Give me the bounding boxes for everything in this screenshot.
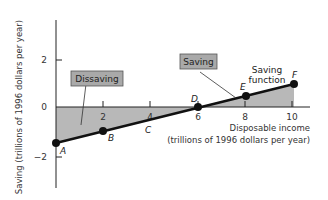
saving-function-chart: 2 0 −2 2 4 6 8 10 A B C D E F Dissaving … [0, 0, 328, 200]
x-tick-2: 2 [100, 112, 106, 122]
y-tick-2: 2 [41, 55, 47, 65]
label-b: B [108, 133, 114, 143]
label-e: E [240, 82, 246, 92]
saving-function-label-line2: function [249, 75, 286, 85]
saving-function-label-line1: Saving [252, 65, 282, 75]
point-f [290, 80, 298, 88]
x-tick-6: 6 [195, 112, 201, 122]
point-b [99, 127, 107, 135]
label-d: D [191, 94, 198, 104]
point-e [242, 92, 250, 100]
y-axis-title: Saving (trillions of 1996 dollars per ye… [14, 20, 24, 194]
point-a [52, 139, 60, 147]
point-d [194, 103, 202, 111]
y-tick-0: 0 [41, 102, 47, 112]
x-axis-title-line2: (trillions of 1996 dollars per year) [167, 135, 310, 145]
x-tick-8: 8 [242, 112, 248, 122]
label-a: A [59, 146, 66, 156]
label-f: F [292, 70, 298, 80]
y-tick-neg2: −2 [34, 152, 47, 162]
saving-leader [200, 72, 236, 98]
x-tick-10: 10 [286, 112, 298, 122]
x-axis-title-line1: Disposable income [230, 123, 310, 133]
dissaving-label: Dissaving [75, 74, 119, 84]
saving-label: Saving [183, 57, 213, 67]
label-c: C [145, 125, 152, 135]
